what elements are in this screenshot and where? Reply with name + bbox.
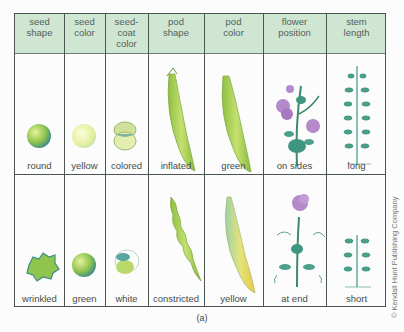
copyright-notice: © Kendall Hunt Publishing Company xyxy=(390,197,399,318)
short-stem-icon xyxy=(344,235,371,287)
label-short: short xyxy=(326,293,387,304)
flower-at-end-icon xyxy=(274,194,325,287)
label-at-end: at end xyxy=(263,293,326,304)
label-constricted: constricted xyxy=(148,293,204,304)
label-wrinkled: wrinkled xyxy=(15,293,64,304)
label-yellow-pod: yellow xyxy=(204,293,263,304)
header-pod-color: podcolor xyxy=(204,14,263,53)
yellow-pod-icon xyxy=(225,197,255,293)
label-round: round xyxy=(15,160,64,171)
label-yellow: yellow xyxy=(64,160,105,171)
flower-on-sides-icon xyxy=(276,85,320,166)
header-pod-shape: podshape xyxy=(148,14,204,53)
label-white: white xyxy=(105,293,148,304)
constricted-pod-icon xyxy=(170,197,201,281)
header-seed-shape: seedshape xyxy=(15,14,64,53)
long-stem-icon xyxy=(344,66,371,164)
label-green-seed: green xyxy=(64,293,105,304)
colored-seed-coat-icon xyxy=(114,122,136,150)
label-on-sides: on sides xyxy=(263,160,326,171)
round-seed-icon xyxy=(27,124,51,148)
pea-traits-table: seedshape seedcolor seed-coatcolor podsh… xyxy=(14,13,386,307)
figure-caption: (a) xyxy=(0,313,404,323)
label-colored: colored xyxy=(105,160,148,171)
yellow-seed-icon xyxy=(72,124,96,148)
green-pod-icon xyxy=(222,76,251,172)
label-green: green xyxy=(204,160,263,171)
row2-illustrations xyxy=(15,175,387,293)
white-seed-coat-icon xyxy=(115,250,139,274)
row1-illustrations xyxy=(15,54,387,174)
header-seed-color: seedcolor xyxy=(64,14,105,53)
label-long: long xyxy=(326,160,387,171)
label-inflated: inflated xyxy=(148,160,204,171)
header-seed-coat-color: seed-coatcolor xyxy=(105,14,148,53)
header-flower-position: flowerposition xyxy=(263,14,326,53)
wrinkled-seed-icon xyxy=(27,253,59,281)
green-seed-icon xyxy=(72,253,96,277)
inflated-pod-icon xyxy=(167,68,195,171)
header-stem-length: stemlength xyxy=(326,14,387,53)
header-row: seedshape seedcolor seed-coatcolor podsh… xyxy=(15,14,385,54)
